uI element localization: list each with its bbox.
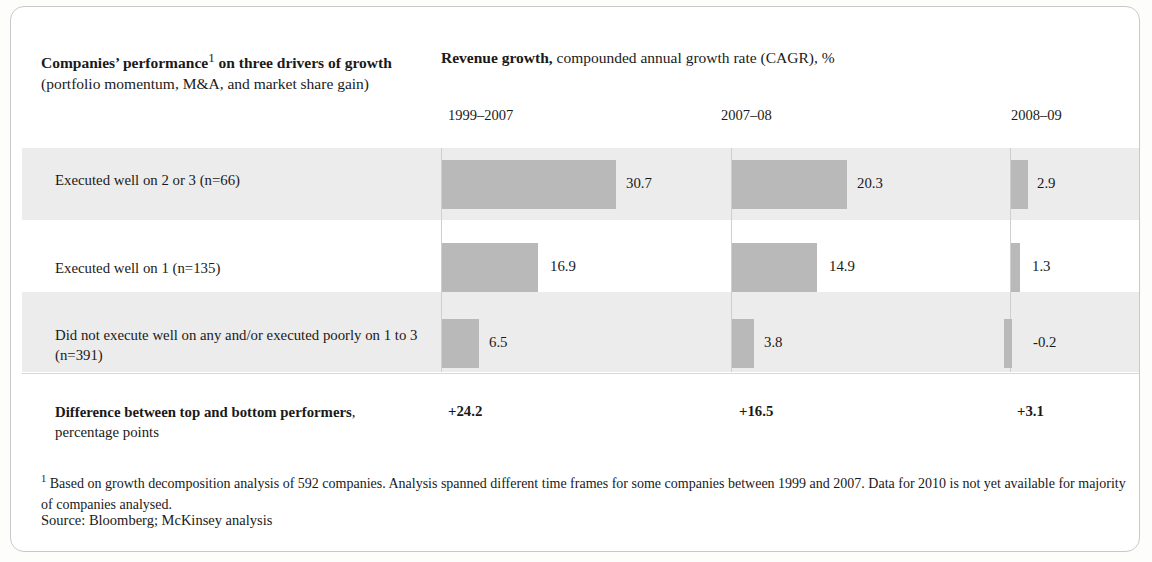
bar-value-row1-col3: 2.9	[1037, 175, 1056, 192]
chart-title-left-bold2: on three drivers of growth	[215, 54, 392, 71]
bar-value-row2-col3: 1.3	[1032, 258, 1051, 275]
difference-row-label: Difference between top and bottom perfor…	[55, 402, 415, 442]
row-label-1: Executed well on 2 or 3 (n=66)	[55, 170, 435, 190]
bar-value-row3-col2: 3.8	[764, 334, 783, 351]
footnote: 1 Based on growth decomposition analysis…	[41, 468, 1131, 515]
chart-frame: Companies’ performance1 on three drivers…	[10, 6, 1140, 552]
difference-value-col2: +16.5	[739, 403, 773, 420]
bar-row3-col1	[442, 319, 479, 368]
footnote-text: Based on growth decomposition analysis o…	[41, 476, 1126, 512]
bar-row1-col1	[442, 160, 616, 209]
row-label-3: Did not execute well on any and/or execu…	[55, 325, 435, 365]
row-label-2: Executed well on 1 (n=135)	[55, 258, 435, 278]
bar-row3-col3	[1004, 319, 1012, 368]
difference-value-col3: +3.1	[1017, 403, 1044, 420]
bar-row3-col2	[732, 319, 754, 368]
row-band-2	[22, 220, 1140, 292]
chart-title-right-rest: compounded annual growth rate (CAGR), %	[553, 49, 835, 66]
bar-row2-col3	[1011, 243, 1020, 292]
column-header-3: 2008–09	[1011, 107, 1062, 124]
chart-title-left-rest: (portfolio momentum, M&A, and market sha…	[41, 75, 369, 92]
bar-value-row1-col1: 30.7	[626, 175, 652, 192]
difference-value-col1: +24.2	[448, 403, 482, 420]
chart-title-left-bold: Companies’ performance	[41, 54, 208, 71]
difference-row-label-bold: Difference between top and bottom perfor…	[55, 404, 352, 420]
chart-title-right-bold: Revenue growth,	[441, 49, 553, 66]
column-header-1: 1999–2007	[448, 107, 513, 124]
bar-value-row2-col2: 14.9	[829, 258, 855, 275]
chart-page: Companies’ performance1 on three drivers…	[0, 0, 1152, 562]
difference-row-divider	[22, 373, 1140, 374]
bar-value-row3-col1: 6.5	[489, 334, 508, 351]
bar-row1-col3	[1011, 160, 1028, 209]
bar-value-row3-col3: -0.2	[1033, 334, 1056, 351]
bar-row1-col2	[732, 160, 847, 209]
source-line: Source: Bloomberg; McKinsey analysis	[41, 510, 272, 531]
chart-title-right: Revenue growth, compounded annual growth…	[441, 48, 835, 68]
bar-value-row2-col1: 16.9	[550, 258, 576, 275]
bar-row2-col2	[732, 243, 817, 292]
chart-title-left: Companies’ performance1 on three drivers…	[41, 47, 431, 94]
bar-row2-col1	[442, 243, 538, 292]
bar-value-row1-col2: 20.3	[857, 175, 883, 192]
column-header-2: 2007–08	[721, 107, 772, 124]
